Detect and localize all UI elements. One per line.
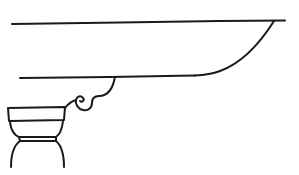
capital-echinus bbox=[10, 121, 63, 137]
architectural-sketch bbox=[0, 0, 299, 175]
bracket-stem bbox=[65, 100, 76, 108]
upper-eave-line bbox=[12, 21, 285, 25]
capital-necking bbox=[19, 137, 56, 141]
column-shaft bbox=[11, 141, 64, 167]
lower-beam-line bbox=[20, 76, 195, 79]
beam-end-curve bbox=[195, 21, 274, 76]
scroll-bracket bbox=[76, 77, 115, 110]
capital-abacus bbox=[8, 107, 65, 121]
